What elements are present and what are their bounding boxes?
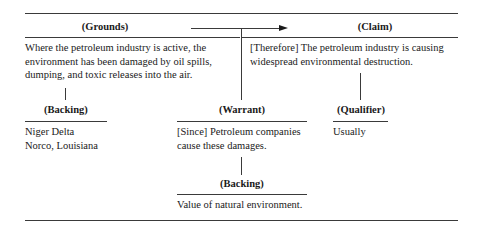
- backing-warrant-text: Value of natural environment.: [177, 198, 302, 212]
- claim-heading: (Claim): [300, 21, 450, 32]
- top-rule: [25, 13, 458, 14]
- warrant-heading: (Warrant): [177, 104, 307, 115]
- grounds-text: Where the petroleum industry is active, …: [25, 41, 235, 82]
- backing-grounds-underline: [25, 121, 107, 122]
- claim-underline: [241, 37, 458, 38]
- warrant-text: [Since] Petroleum companies cause these …: [177, 125, 312, 152]
- qualifier-connector: [360, 73, 361, 100]
- backing-grounds-line-2: Norco, Louisiana: [25, 139, 98, 153]
- claim-text: [Therefore] The petroleum industry is ca…: [250, 41, 455, 68]
- backing-grounds-heading: (Backing): [25, 104, 107, 115]
- grounds-underline: [25, 37, 240, 38]
- grounds-heading: (Grounds): [25, 21, 185, 32]
- qualifier-underline: [333, 121, 388, 122]
- arrowhead-icon: [279, 25, 288, 31]
- qualifier-heading: (Qualifier): [330, 104, 392, 115]
- backing-grounds-line-1: Niger Delta: [25, 125, 74, 139]
- bottom-rule: [25, 220, 458, 221]
- warrant-connector: [241, 28, 242, 100]
- backing-grounds-connector: [65, 88, 66, 100]
- qualifier-text: Usually: [333, 125, 366, 139]
- backing-warrant-connector: [241, 157, 242, 175]
- backing-warrant-heading: (Backing): [177, 178, 307, 189]
- backing-warrant-underline: [177, 194, 307, 195]
- grounds-to-claim-arrow-line: [191, 28, 279, 29]
- warrant-underline: [177, 121, 307, 122]
